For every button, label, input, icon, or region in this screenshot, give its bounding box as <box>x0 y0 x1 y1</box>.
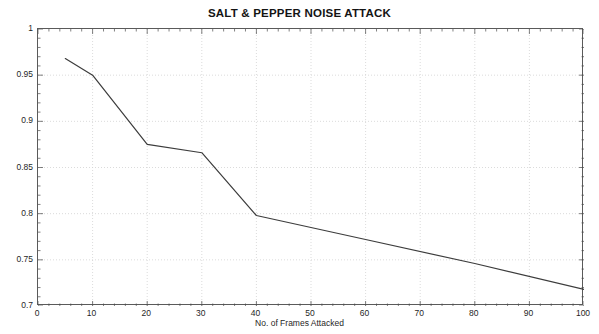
x-tick-label: 0 <box>35 308 40 318</box>
x-tick-label: 80 <box>469 308 478 318</box>
y-tick-label: 0.9 <box>3 115 33 125</box>
x-tick-label: 30 <box>196 308 205 318</box>
y-tick-label: 0.7 <box>3 300 33 310</box>
x-tick-label: 50 <box>305 308 314 318</box>
x-axis-label: No. of Frames Attacked <box>0 318 599 328</box>
x-tick-label: 40 <box>251 308 260 318</box>
y-axis-tick-labels: 0.70.750.80.850.90.951 <box>0 28 33 305</box>
plot-svg <box>38 29 584 306</box>
y-tick-label: 0.8 <box>3 208 33 218</box>
data-series-group <box>65 59 584 290</box>
y-tick-label: 1 <box>3 23 33 33</box>
figure-canvas: SALT & PEPPER NOISE ATTACK 0.70.750.80.8… <box>0 0 599 334</box>
x-tick-label: 90 <box>524 308 533 318</box>
x-tick-label: 60 <box>360 308 369 318</box>
x-tick-label: 100 <box>576 308 590 318</box>
x-tick-label: 20 <box>141 308 150 318</box>
plot-area <box>37 28 583 305</box>
data-line <box>65 59 584 290</box>
y-tick-label: 0.85 <box>3 162 33 172</box>
x-tick-label: 10 <box>87 308 96 318</box>
grid-lines <box>38 29 584 306</box>
y-tick-label: 0.95 <box>3 69 33 79</box>
y-tick-label: 0.75 <box>3 254 33 264</box>
x-tick-label: 70 <box>414 308 423 318</box>
chart-title: SALT & PEPPER NOISE ATTACK <box>0 7 599 19</box>
